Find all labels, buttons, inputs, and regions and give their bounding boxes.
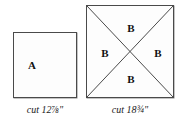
square-piece-b: B B B B bbox=[86, 5, 174, 98]
piece-label-a: A bbox=[24, 60, 40, 71]
piece-label-b-right: B bbox=[150, 48, 166, 59]
square-piece-a bbox=[13, 32, 77, 98]
piece-label-b-left: B bbox=[97, 48, 113, 59]
cut-caption-b: cut 18¾" bbox=[86, 105, 174, 115]
cut-caption-a: cut 12⅞" bbox=[0, 105, 90, 115]
piece-label-b-top: B bbox=[123, 23, 139, 34]
quilt-cutting-diagram: A cut 12⅞" B B B B cut 18¾" bbox=[0, 0, 182, 125]
piece-label-b-bottom: B bbox=[123, 74, 139, 85]
